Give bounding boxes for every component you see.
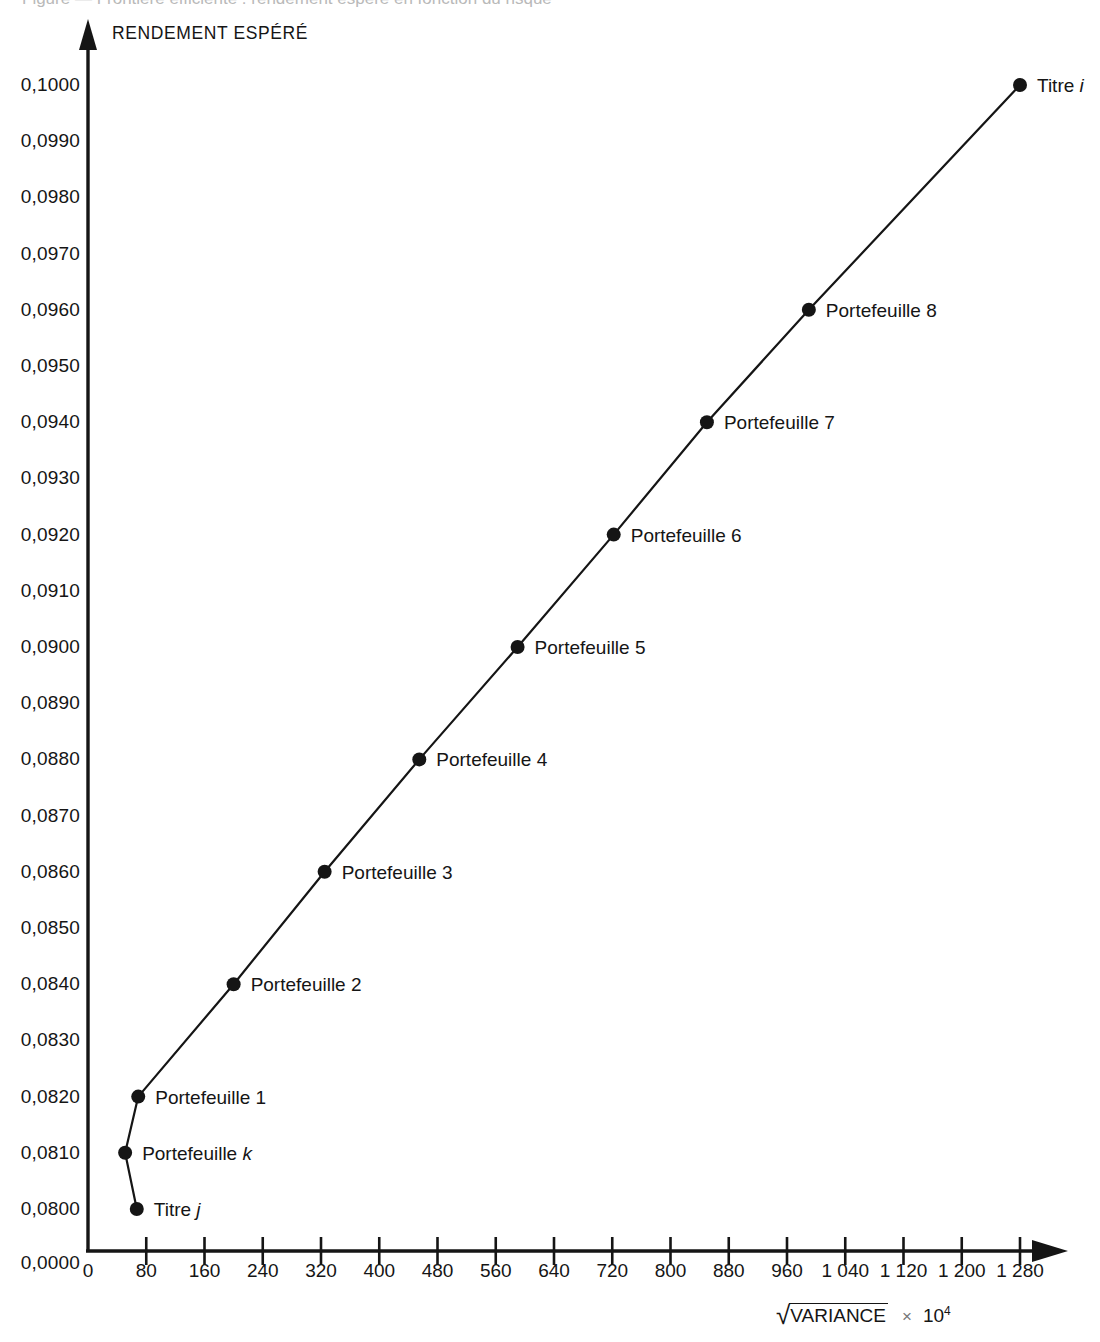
data-point-label: Portefeuille k [142,1143,252,1165]
data-point-label: Titre j [154,1199,201,1221]
data-point-label: Portefeuille 6 [631,525,742,547]
data-point-label: Titre i [1037,75,1084,97]
power-of-ten: 104 [923,1304,951,1327]
radical-sign-icon: √ [776,1302,790,1328]
multiplication-icon: × [902,1307,912,1327]
data-point-label: Portefeuille 8 [826,300,937,322]
x-axis-title: √VARIANCE × 104 [776,1300,951,1327]
data-point-labels: Titre jPortefeuille kPortefeuille 1Porte… [0,0,1100,1342]
y-axis-title: RENDEMENT ESPÉRÉ [112,23,308,44]
data-point-label: Portefeuille 7 [724,412,835,434]
data-point-label: Portefeuille 3 [342,862,453,884]
italic-symbol: i [1080,75,1084,96]
data-point-label: Portefeuille 2 [251,974,362,996]
radicand-label: VARIANCE [789,1303,888,1327]
italic-symbol: k [242,1143,252,1164]
data-point-label: Portefeuille 4 [436,749,547,771]
data-point-label: Portefeuille 5 [535,637,646,659]
italic-symbol: j [196,1199,200,1220]
efficient-frontier-chart: Figure — Frontière efficiente : rendemen… [0,0,1100,1342]
data-point-label: Portefeuille 1 [155,1087,266,1109]
